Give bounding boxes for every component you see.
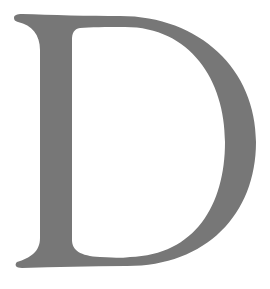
letter-d-shape	[0, 0, 270, 289]
